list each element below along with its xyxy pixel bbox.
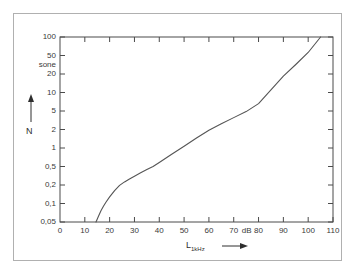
y-tick-label: 0,1 (4, 199, 56, 208)
x-axis-ticks-top (85, 37, 308, 42)
loudness-curve (96, 37, 321, 222)
y-axis-title: N (26, 126, 33, 136)
y-tick-label: 100 (4, 32, 56, 41)
x-tick-label: 10 (71, 226, 99, 235)
x-axis-title: L1kHz (186, 240, 205, 254)
y-tick-label: 0,5 (4, 162, 56, 171)
x-tick-label: 90 (269, 226, 297, 235)
y-tick-label: 1 (4, 143, 56, 152)
x-tick-label: 50 (170, 226, 198, 235)
x-axis-ticks (85, 217, 333, 222)
y-tick-label: 10 (4, 88, 56, 97)
x-tick-label: 40 (145, 226, 173, 235)
y-tick-label: 0,2 (4, 180, 56, 189)
right-arrow-icon (222, 243, 248, 249)
y-tick-label: 50 (4, 51, 56, 60)
y-axis-ticks (60, 37, 65, 222)
x-tick-label: 60 (195, 226, 223, 235)
x-tick-label: 110 (319, 226, 347, 235)
y-tick-label: 5 (4, 106, 56, 115)
y-tick-label: 0,05 (4, 217, 56, 226)
plot-frame (60, 37, 333, 222)
x-tick-label: 20 (96, 226, 124, 235)
loudness-chart-figure: 0,050,10,20,5125102050100 sone 010203040… (0, 0, 356, 275)
x-axis-unit-label: dB (242, 226, 252, 235)
y-axis-ticks-right (328, 37, 333, 222)
x-tick-label: 30 (120, 226, 148, 235)
x-tick-label: 0 (46, 226, 74, 235)
x-axis-title-subscript: 1kHz (191, 246, 205, 252)
y-tick-label: 20 (4, 69, 56, 78)
x-tick-label: 100 (294, 226, 322, 235)
y-axis-unit-label: sone (4, 60, 56, 69)
